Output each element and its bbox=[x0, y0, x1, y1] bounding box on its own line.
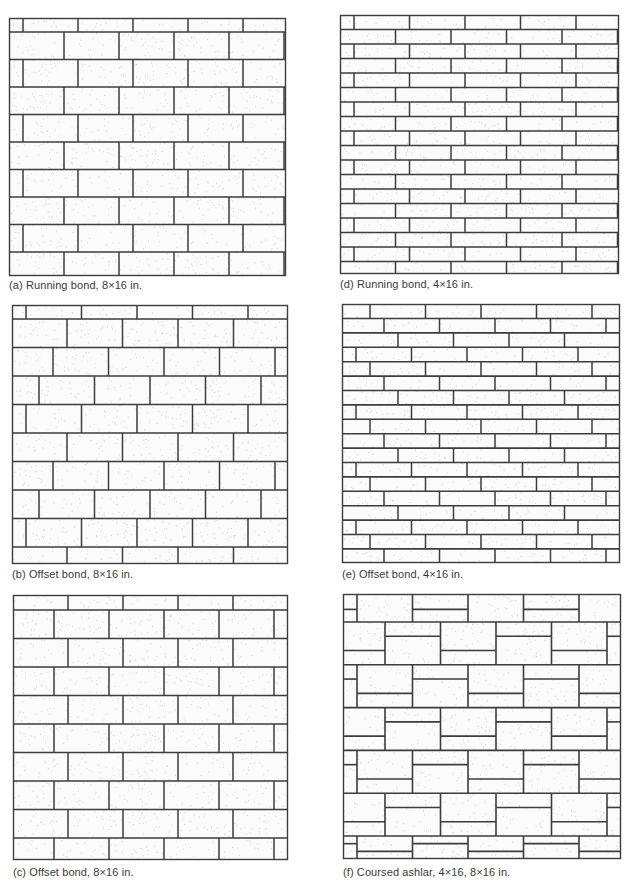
caption-c: (c) Offset bond, 8×16 in. bbox=[13, 866, 134, 878]
brick-pattern-c bbox=[13, 595, 288, 860]
caption-f: (f) Coursed ashlar, 4×16, 8×16 in. bbox=[343, 866, 510, 878]
brick-pattern-b bbox=[12, 305, 288, 564]
brick-pattern-e bbox=[342, 304, 620, 563]
brick-pattern-f bbox=[343, 594, 621, 859]
panel-f-coursed-ashlar bbox=[343, 594, 621, 859]
caption-e: (e) Offset bond, 4×16 in. bbox=[342, 568, 463, 580]
panel-e-offset-bond-4x16 bbox=[342, 304, 620, 563]
caption-b: (b) Offset bond, 8×16 in. bbox=[12, 568, 133, 580]
caption-d: (d) Running bond, 4×16 in. bbox=[340, 278, 473, 290]
panel-a-running-bond-8x16 bbox=[9, 18, 286, 276]
brick-pattern-a bbox=[9, 18, 286, 276]
caption-a: (a) Running bond, 8×16 in. bbox=[9, 279, 142, 291]
brick-pattern-d bbox=[340, 15, 619, 274]
panel-b-offset-bond-8x16 bbox=[12, 305, 288, 564]
panel-d-running-bond-4x16 bbox=[340, 15, 619, 274]
panel-c-offset-bond-8x16 bbox=[13, 595, 288, 860]
